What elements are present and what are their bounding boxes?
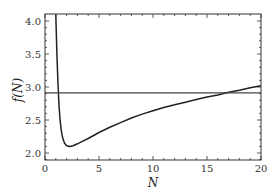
- axis-ticks: [45, 14, 261, 160]
- y-tick-label: 3.5: [25, 49, 41, 60]
- x-axis-label: N: [147, 176, 159, 190]
- y-tick-label: 2.0: [25, 148, 41, 159]
- y-tick-label: 4.0: [25, 16, 41, 27]
- y-tick-label: 3.0: [25, 82, 41, 93]
- x-tick-label: 20: [255, 163, 268, 174]
- line-chart: 05101520 2.02.53.03.54.0 N f(N): [0, 0, 276, 192]
- y-tick-label: 2.5: [25, 115, 41, 126]
- y-tick-labels: 2.02.53.03.54.0: [25, 16, 41, 159]
- x-tick-label: 0: [42, 163, 48, 174]
- x-tick-label: 5: [96, 163, 102, 174]
- y-axis-label: f(N): [11, 78, 25, 104]
- x-tick-label: 10: [147, 163, 160, 174]
- curve-line: [56, 14, 261, 146]
- plot-lines: [45, 14, 261, 146]
- x-tick-label: 15: [201, 163, 214, 174]
- x-tick-labels: 05101520: [42, 163, 268, 174]
- plot-frame: [45, 14, 261, 160]
